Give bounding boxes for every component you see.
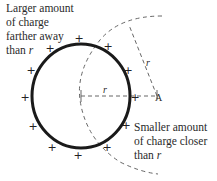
charge-plus: + — [103, 40, 112, 53]
point-a-label: A — [155, 92, 163, 103]
caption-closer-var: r — [157, 149, 162, 161]
charge-plus: + — [102, 141, 111, 154]
caption-farther-line4: than r — [6, 44, 34, 56]
charge-plus: + — [28, 120, 37, 133]
caption-farther-line3: farther away — [6, 30, 64, 43]
charge-plus: + — [73, 149, 82, 162]
radius-label-slanted: r — [146, 57, 150, 68]
caption-farther-var: r — [29, 44, 34, 56]
charge-plus: + — [123, 64, 132, 77]
charge-plus: + — [26, 64, 35, 77]
caption-closer-line1: Smaller amount — [134, 121, 208, 133]
charge-plus: + — [130, 91, 139, 104]
charge-plus: + — [74, 32, 83, 45]
caption-farther-line1: Larger amount — [6, 2, 75, 15]
radius-label-horizontal: r — [103, 84, 107, 95]
caption-closer-line3: than r — [134, 149, 162, 161]
charged-ring-diagram: + + + + + + + + + + + + r r A Larger amo… — [0, 0, 217, 181]
charge-plus: + — [45, 42, 54, 55]
caption-farther-than: than — [6, 44, 29, 56]
charge-plus: + — [20, 91, 29, 104]
slanted-radius-line — [129, 25, 157, 96]
charge-plus: + — [47, 141, 56, 154]
caption-closer-line2: of charge closer — [134, 135, 207, 148]
caption-closer-than: than — [134, 149, 157, 161]
caption-farther-line2: of charge — [6, 16, 49, 29]
charge-plus: + — [121, 119, 130, 132]
caption-closer: Smaller amount of charge closer than r — [134, 121, 208, 161]
